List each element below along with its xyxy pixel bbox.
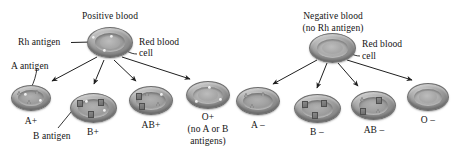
rh-antigen-marker [160,93,163,96]
a-antigen-marker [261,92,265,96]
rh-antigen-marker [103,49,106,52]
cell-ab-negative-label: AB – [349,125,399,136]
rh-antigen-marker [85,100,88,103]
rh-antigen-marker [110,35,113,38]
cell-dimple-inner [419,91,437,102]
cell-b-positive-label: B+ [69,127,117,138]
cell-a-positive [11,85,51,111]
b-antigen-marker [98,99,104,106]
red-blood-cell-label-left-line1: Red blood [139,37,179,48]
arrow-negative-to-o [347,60,412,80]
cell-ab-positive [129,86,173,115]
a-antigen-marker [244,93,248,97]
red-blood-cell-label-right-line1: Red blood [362,39,402,50]
b-antigen-marker [77,100,83,107]
cell-dimple-inner [198,89,217,100]
cell-a-negative [236,87,280,115]
cell-b-negative-label: B – [293,127,341,138]
a-antigen-marker [376,109,380,113]
rh-antigen-marker [39,99,42,102]
rh-antigen-marker [103,109,106,112]
b-antigen-marker [312,112,318,119]
cell-dimple-inner [322,42,343,54]
negative-parent-red-blood-cell [309,33,356,63]
b-antigen-marker [302,101,308,108]
arrow-positive-to-ab [114,60,136,81]
cell-o-negative-label: O – [405,115,451,126]
a-antigen-marker [27,100,31,104]
b-antigen-marker [139,103,145,110]
cell-a-negative-label: A – [234,120,282,131]
blood-type-diagram: Positive blood Rh antigen A antigen B an… [0,0,453,156]
cell-a-positive-label: A+ [11,116,51,127]
b-antigen-marker [321,100,327,107]
red-blood-cell-label-left-line2: cell [139,48,153,59]
rh-antigen-marker [24,93,27,96]
arrow-negative-to-a [273,60,317,84]
arrow-positive-to-b [94,60,104,84]
b-antigen-label: B antigen [33,131,71,142]
arrow-negative-to-b [317,63,327,88]
a-antigen-label: A antigen [11,61,49,72]
a-antigen-marker [17,91,21,95]
arrow-positive-to-o [122,57,190,79]
cell-ab-positive-label: AB+ [127,120,175,131]
a-antigen-marker [250,104,254,108]
positive-blood-title: Positive blood [60,11,160,22]
arrow-positive-to-a [52,57,97,81]
b-antigen-marker [136,93,142,100]
positive-parent-red-blood-cell [87,27,133,58]
a-antigen-marker [156,102,160,106]
cell-o-negative [407,83,449,111]
b-antigen-marker [360,108,366,115]
cell-o-positive-sublabel-line2: antigens) [172,136,244,147]
cell-o-positive [186,81,230,109]
arrow-negative-to-ab [338,63,358,86]
cell-b-positive [70,93,117,123]
cell-dimple-inner [100,36,120,48]
rh-antigen-marker [195,100,198,103]
rh-antigen-marker [92,36,95,39]
cell-ab-negative [351,91,396,120]
rh-antigen-marker [219,98,222,101]
negative-blood-title-line1: Negative blood [281,11,385,22]
b-antigen-marker [88,111,94,118]
rh-antigen-label: Rh antigen [18,37,60,48]
cell-b-negative [294,94,341,123]
a-antigen-marker [145,92,149,96]
a-antigen-marker [35,90,39,94]
a-antigen-marker [360,97,364,101]
red-blood-cell-label-right-line2: cell [362,51,376,62]
cell-o-positive-label: O+ [184,112,232,123]
b-antigen-marker [376,97,382,104]
rh-antigen-marker [208,86,211,89]
